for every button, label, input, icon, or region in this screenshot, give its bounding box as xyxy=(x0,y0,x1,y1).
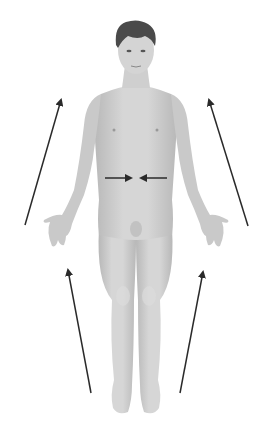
human-body xyxy=(44,20,229,413)
right-nipple xyxy=(156,129,159,132)
left-knee xyxy=(116,286,130,306)
upper-left-arrow xyxy=(25,100,61,225)
right-eye xyxy=(141,50,146,52)
lower-right-arrow xyxy=(180,272,203,393)
genitals xyxy=(130,221,142,237)
left-leg xyxy=(99,228,136,413)
left-eye xyxy=(127,50,132,52)
left-nipple xyxy=(113,129,116,132)
right-arm xyxy=(171,94,228,246)
left-arm xyxy=(44,94,101,246)
lower-left-arrow xyxy=(68,270,91,393)
anatomical-figure xyxy=(0,0,271,429)
torso xyxy=(94,85,177,240)
right-leg xyxy=(136,228,173,413)
right-knee xyxy=(142,286,156,306)
upper-right-arrow xyxy=(209,100,248,226)
